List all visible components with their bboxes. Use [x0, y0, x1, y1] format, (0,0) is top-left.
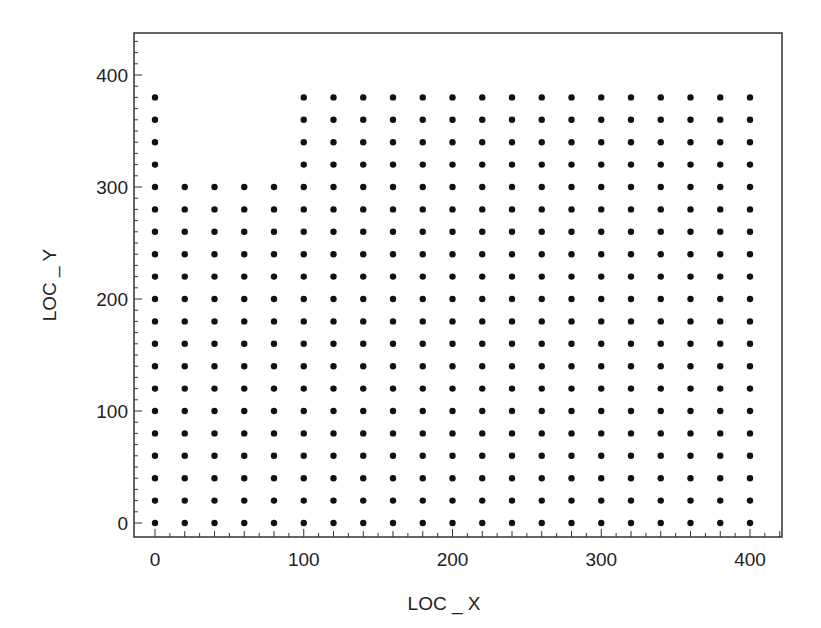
data-point — [360, 520, 366, 526]
data-point — [449, 94, 455, 100]
data-point — [420, 139, 426, 145]
data-point — [598, 385, 604, 391]
data-point — [211, 251, 217, 257]
data-point — [628, 117, 634, 123]
data-point — [449, 430, 455, 436]
data-point — [598, 430, 604, 436]
data-point — [687, 273, 693, 279]
data-point — [479, 184, 485, 190]
data-point — [598, 408, 604, 414]
data-point — [182, 475, 188, 481]
data-point — [420, 229, 426, 235]
data-point — [747, 184, 753, 190]
data-point — [182, 206, 188, 212]
data-point — [152, 363, 158, 369]
data-point — [420, 184, 426, 190]
data-point — [152, 251, 158, 257]
data-point — [687, 161, 693, 167]
data-point — [420, 206, 426, 212]
data-point — [509, 184, 515, 190]
data-point — [479, 273, 485, 279]
data-point — [420, 318, 426, 324]
data-point — [360, 184, 366, 190]
data-point — [509, 273, 515, 279]
data-point — [420, 117, 426, 123]
data-point — [568, 497, 574, 503]
data-point — [211, 453, 217, 459]
data-point — [509, 453, 515, 459]
x-tick-label: 400 — [734, 549, 766, 570]
data-point — [211, 520, 217, 526]
data-point — [598, 453, 604, 459]
data-point — [509, 430, 515, 436]
data-point — [241, 385, 247, 391]
x-axis-label: LOC _ X — [408, 593, 481, 615]
data-point — [539, 497, 545, 503]
y-tick-label: 200 — [96, 289, 128, 310]
data-point — [747, 430, 753, 436]
data-point — [509, 206, 515, 212]
data-point — [717, 408, 723, 414]
data-point — [717, 229, 723, 235]
data-point — [211, 296, 217, 302]
data-point — [301, 318, 307, 324]
data-point — [390, 184, 396, 190]
x-axis-tick-labels: 0100200300400 — [150, 549, 766, 570]
data-point — [658, 453, 664, 459]
data-point — [717, 520, 723, 526]
data-point — [301, 453, 307, 459]
data-point — [420, 408, 426, 414]
data-point — [390, 229, 396, 235]
data-point — [687, 184, 693, 190]
data-points — [152, 94, 753, 526]
data-point — [449, 161, 455, 167]
data-point — [330, 273, 336, 279]
data-point — [360, 161, 366, 167]
data-point — [509, 385, 515, 391]
data-point — [241, 497, 247, 503]
data-point — [717, 161, 723, 167]
data-point — [271, 430, 277, 436]
data-point — [271, 251, 277, 257]
data-point — [241, 520, 247, 526]
x-tick-label: 200 — [437, 549, 469, 570]
y-axis-tick-labels: 0100200300400 — [96, 65, 128, 534]
data-point — [628, 497, 634, 503]
data-point — [687, 251, 693, 257]
data-point — [330, 184, 336, 190]
data-point — [509, 94, 515, 100]
data-point — [568, 206, 574, 212]
data-point — [360, 94, 366, 100]
data-point — [658, 184, 664, 190]
data-point — [390, 520, 396, 526]
data-point — [360, 117, 366, 123]
data-point — [390, 408, 396, 414]
data-point — [568, 161, 574, 167]
data-point — [420, 385, 426, 391]
y-tick-label: 100 — [96, 401, 128, 422]
data-point — [301, 184, 307, 190]
y-tick-label: 0 — [117, 513, 128, 534]
data-point — [241, 273, 247, 279]
data-point — [449, 229, 455, 235]
data-point — [687, 117, 693, 123]
data-point — [568, 296, 574, 302]
data-point — [658, 161, 664, 167]
data-point — [301, 94, 307, 100]
data-point — [628, 184, 634, 190]
data-point — [628, 475, 634, 481]
data-point — [598, 318, 604, 324]
data-point — [509, 251, 515, 257]
data-point — [747, 363, 753, 369]
data-point — [301, 161, 307, 167]
data-point — [241, 453, 247, 459]
data-point — [390, 206, 396, 212]
data-point — [747, 341, 753, 347]
data-point — [420, 341, 426, 347]
data-point — [420, 161, 426, 167]
data-point — [152, 520, 158, 526]
data-point — [539, 273, 545, 279]
data-point — [330, 453, 336, 459]
data-point — [241, 318, 247, 324]
data-point — [271, 296, 277, 302]
